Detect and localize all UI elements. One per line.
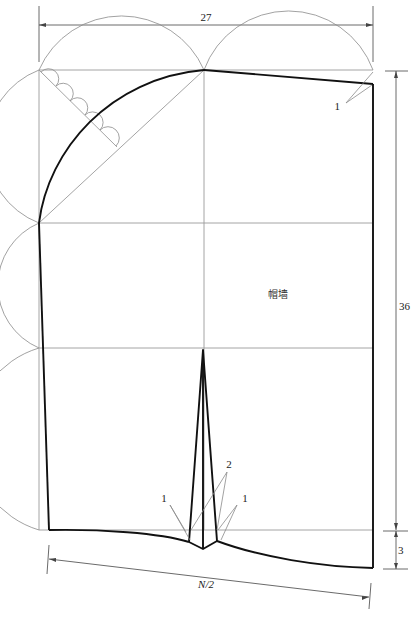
hood-pattern-diagram: 27 bbox=[0, 0, 415, 617]
top-width-dimension: 27 bbox=[39, 6, 373, 62]
corner-annotation: 1 bbox=[335, 72, 374, 112]
dart-left-label: 1 bbox=[161, 492, 167, 504]
right-height-label: 36 bbox=[399, 300, 411, 312]
corner-annotation-label: 1 bbox=[335, 100, 341, 112]
construction-grid bbox=[39, 70, 373, 530]
construction-arcs bbox=[0, 11, 373, 530]
dart-center-label: 2 bbox=[226, 458, 232, 470]
dart-right-label: 1 bbox=[242, 492, 248, 504]
part-label: 帽墙 bbox=[268, 288, 288, 300]
right-height-dimension: 36 bbox=[385, 71, 411, 530]
hem-drop-label: 3 bbox=[398, 544, 404, 556]
bottom-span-label: N/2 bbox=[197, 578, 214, 590]
hem-drop-dimension: 3 bbox=[383, 531, 408, 569]
dart-annotations: 1 2 1 bbox=[161, 458, 248, 540]
pattern-outline bbox=[39, 70, 373, 568]
bottom-span-dimension: N/2 bbox=[47, 545, 371, 609]
top-width-label: 27 bbox=[201, 11, 213, 23]
